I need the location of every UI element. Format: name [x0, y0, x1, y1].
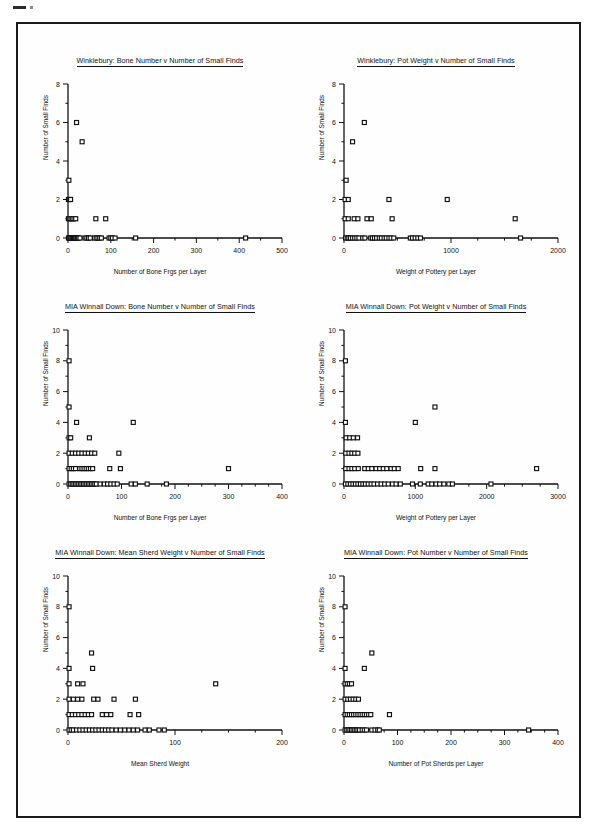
y-axis-ticks: 0246810 [328, 327, 344, 488]
y-axis-ticks: 02468 [332, 81, 344, 242]
data-point [343, 666, 347, 670]
data-point [356, 436, 360, 440]
data-point [78, 236, 82, 240]
data-point [535, 467, 539, 471]
data-point [67, 178, 71, 182]
y-tick-label: 6 [332, 634, 336, 641]
scan-artifact-dot [30, 6, 33, 9]
data-point [136, 728, 140, 732]
data-point [430, 482, 434, 486]
data-point [137, 713, 141, 717]
data-point [114, 728, 118, 732]
data-point [390, 217, 394, 221]
x-tick-label: 2000 [550, 247, 566, 254]
y-tick-label: 0 [56, 727, 60, 734]
chart-title: MIA Winnall Down: Pot Weight v Number of… [300, 302, 572, 311]
data-point [387, 713, 391, 717]
axes [68, 576, 282, 730]
x-tick-label: 200 [276, 739, 288, 746]
data-point [129, 482, 133, 486]
chart-title-text: Winklebury: Bone Number v Number of Smal… [77, 56, 244, 67]
data-point [445, 198, 449, 202]
data-point [438, 482, 442, 486]
data-point [100, 713, 104, 717]
chart-title: MIA Winnall Down: Mean Sherd Weight v Nu… [24, 548, 296, 557]
data-point [214, 682, 218, 686]
data-point [413, 420, 417, 424]
data-point [67, 605, 71, 609]
data-point [365, 217, 369, 221]
x-tick-label: 3000 [550, 493, 566, 500]
data-point [346, 198, 350, 202]
data-point [69, 436, 73, 440]
data-point [76, 697, 80, 701]
plot-area: Number of Small FindsNumber of Bone Frgs… [24, 74, 296, 274]
x-tick-label: 200 [169, 493, 181, 500]
data-point [90, 651, 94, 655]
data-point [94, 217, 98, 221]
data-point [351, 436, 355, 440]
data-point [110, 728, 114, 732]
data-point [104, 217, 108, 221]
axes [344, 84, 558, 238]
x-tick-label: 0 [66, 739, 70, 746]
data-point [131, 420, 135, 424]
axes [344, 576, 558, 730]
data-point [67, 359, 71, 363]
y-tick-label: 8 [332, 81, 336, 88]
plot-area: Number of Small FindsNumber of Pot Sherd… [300, 566, 572, 766]
y-tick-label: 0 [56, 235, 60, 242]
data-point [67, 697, 71, 701]
data-point [81, 682, 85, 686]
data-point [385, 467, 389, 471]
data-point [489, 482, 493, 486]
chart-title-text: MIA Winnall Down: Pot Weight v Number of… [346, 302, 527, 313]
data-point [164, 482, 168, 486]
x-tick-label: 100 [392, 739, 404, 746]
x-tick-label: 1000 [443, 247, 459, 254]
data-point [369, 713, 373, 717]
y-tick-label: 2 [332, 696, 336, 703]
x-tick-label: 0 [342, 247, 346, 254]
data-point [133, 697, 137, 701]
data-point [99, 236, 103, 240]
scatter-plot-svg: 01002003004000246810 [24, 320, 296, 520]
data-point [90, 713, 94, 717]
x-tick-label: 500 [276, 247, 288, 254]
y-tick-label: 6 [332, 119, 336, 126]
data-point [356, 467, 360, 471]
data-point [349, 682, 353, 686]
plot-area: Number of Small FindsNumber of Bone Frgs… [24, 320, 296, 520]
data-point [362, 666, 366, 670]
chart-title-text: MIA Winnall Down: Bone Number v Number o… [65, 302, 255, 313]
data-point-series [343, 359, 538, 486]
y-axis-ticks: 0246810 [52, 327, 68, 488]
y-tick-label: 0 [332, 481, 336, 488]
chart-panel: MIA Winnall Down: Pot Number v Number of… [300, 542, 572, 787]
data-point [344, 178, 348, 182]
data-point [87, 436, 91, 440]
data-point [105, 713, 109, 717]
plot-area: Number of Small FindsWeight of Pottery p… [300, 320, 572, 520]
data-point [419, 236, 423, 240]
data-point [127, 728, 131, 732]
x-tick-label: 300 [223, 493, 235, 500]
data-point [76, 682, 80, 686]
x-tick-label: 0 [66, 493, 70, 500]
x-tick-label: 200 [148, 247, 160, 254]
data-point [75, 121, 79, 125]
data-point [398, 482, 402, 486]
x-tick-label: 2000 [479, 493, 495, 500]
data-point-series [67, 359, 230, 486]
data-point [346, 217, 350, 221]
data-point-series [343, 121, 522, 241]
data-point [143, 728, 147, 732]
data-point [364, 728, 368, 732]
data-point [450, 482, 454, 486]
y-tick-label: 8 [56, 81, 60, 88]
data-point [75, 420, 79, 424]
y-axis-ticks: 0246810 [52, 573, 68, 734]
data-point-series [67, 605, 218, 732]
data-point [386, 482, 390, 486]
y-tick-label: 4 [332, 158, 336, 165]
